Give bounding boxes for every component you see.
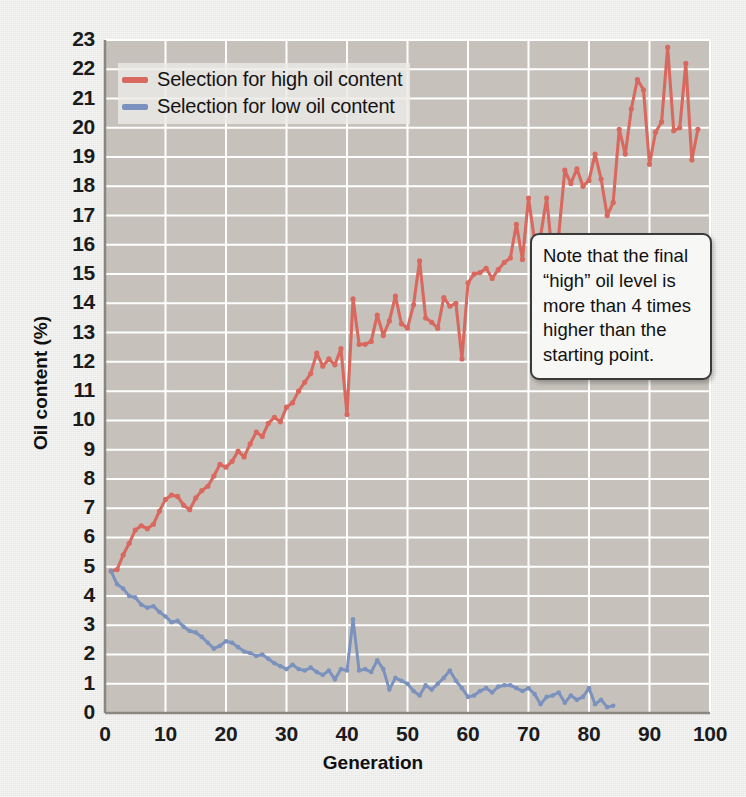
data-point [248, 441, 253, 446]
data-point [393, 293, 398, 298]
data-point [363, 667, 368, 672]
data-point [405, 326, 410, 331]
x-tick-label: 30 [257, 722, 317, 746]
legend-label-low: Selection for low oil content [157, 95, 395, 118]
data-point [175, 494, 180, 499]
data-point [387, 687, 392, 692]
data-point [345, 668, 350, 673]
x-tick-label: 10 [136, 722, 196, 746]
data-point [647, 162, 652, 167]
data-point [193, 495, 198, 500]
data-point [133, 528, 138, 533]
data-point [695, 127, 700, 132]
data-point [593, 702, 598, 707]
legend-item-low[interactable]: Selection for low oil content [122, 93, 402, 120]
data-point [538, 702, 543, 707]
data-point [308, 371, 313, 376]
data-point [321, 673, 326, 678]
data-point [338, 346, 343, 351]
data-point [405, 681, 410, 686]
x-tick-label: 40 [317, 722, 377, 746]
data-point [163, 497, 168, 502]
data-point [471, 271, 476, 276]
data-point [314, 350, 319, 355]
x-tick-label: 60 [438, 722, 498, 746]
data-point [683, 61, 688, 66]
data-point [435, 681, 440, 686]
data-point [417, 693, 422, 698]
y-tick-label: 13 [55, 320, 95, 344]
y-tick-label: 21 [55, 86, 95, 110]
y-tick-label: 22 [55, 56, 95, 80]
data-point [575, 698, 580, 703]
data-point [441, 295, 446, 300]
y-tick-label: 3 [55, 612, 95, 636]
data-point [562, 168, 567, 173]
x-tick-label: 70 [499, 722, 559, 746]
data-point [375, 658, 380, 663]
data-point [611, 703, 616, 708]
data-point [587, 686, 592, 691]
data-point [206, 640, 211, 645]
data-point [211, 473, 216, 478]
data-point [381, 667, 386, 672]
data-point [327, 668, 332, 673]
data-point [290, 662, 295, 667]
y-tick-label: 16 [55, 232, 95, 256]
data-point [333, 677, 338, 682]
data-point [157, 610, 162, 615]
data-point [671, 128, 676, 133]
legend-swatch-low [122, 104, 148, 110]
data-point [569, 693, 574, 698]
data-point [508, 255, 513, 260]
x-tick-label: 20 [196, 722, 256, 746]
data-point [175, 619, 180, 624]
data-point [381, 333, 386, 338]
data-point [592, 152, 597, 157]
data-point [151, 604, 156, 609]
data-point [435, 326, 440, 331]
data-point [357, 342, 362, 347]
legend-item-high[interactable]: Selection for high oil content [122, 66, 402, 93]
data-point [472, 693, 477, 698]
y-tick-label: 10 [55, 407, 95, 431]
data-point [199, 488, 204, 493]
data-point [605, 213, 610, 218]
data-point [514, 686, 519, 691]
data-point [677, 125, 682, 130]
data-point [454, 679, 459, 684]
x-axis-label: Generation [0, 752, 746, 774]
data-point [526, 686, 531, 691]
data-point [187, 507, 192, 512]
data-point [532, 692, 537, 697]
y-tick-label: 6 [55, 524, 95, 548]
data-point [496, 684, 501, 689]
data-point [254, 654, 259, 659]
data-point [351, 617, 356, 622]
data-point [689, 157, 694, 162]
data-point [429, 687, 434, 692]
data-point [544, 195, 549, 200]
y-tick-label: 5 [55, 554, 95, 578]
data-point [229, 459, 234, 464]
data-point [205, 484, 210, 489]
data-point [272, 661, 277, 666]
data-point [302, 380, 307, 385]
data-point [599, 176, 604, 181]
data-point [453, 301, 458, 306]
data-point [653, 130, 658, 135]
data-point [115, 582, 120, 587]
data-point [236, 449, 241, 454]
data-point [460, 686, 465, 691]
data-point [490, 276, 495, 281]
chart-legend: Selection for high oil content Selection… [118, 63, 410, 124]
data-point [556, 690, 561, 695]
data-point [478, 270, 483, 275]
data-point [145, 605, 150, 610]
data-point [181, 503, 186, 508]
data-point [526, 195, 531, 200]
data-point [375, 312, 380, 317]
y-tick-label: 23 [55, 27, 95, 51]
y-tick-label: 12 [55, 349, 95, 373]
data-point [145, 526, 150, 531]
